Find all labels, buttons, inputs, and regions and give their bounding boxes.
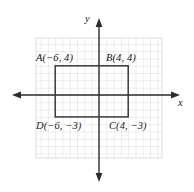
coordinate-plane-figure: A(−6, 4) B(4, 4) C(4, −3) D(−6, −3) y x [0, 0, 194, 192]
point-label-a: A(−6, 4) [36, 52, 73, 63]
x-axis-label: x [178, 97, 183, 108]
coordinate-plane-svg [0, 0, 194, 192]
y-axis-label: y [85, 13, 90, 24]
point-label-c: C(4, −3) [109, 120, 147, 131]
point-label-b: B(4, 4) [106, 52, 136, 63]
point-label-d: D(−6, −3) [36, 120, 81, 131]
